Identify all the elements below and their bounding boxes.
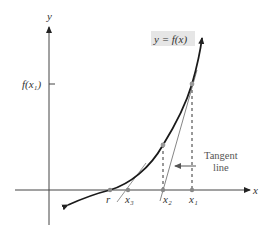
label-x3: x₃ [124, 193, 134, 205]
label-x2: x₂ [162, 193, 172, 205]
newton-method-diagram: y = f(x) y x f(x₁) r x₃ x₂ x₁ Tangent li… [0, 0, 271, 236]
annotation-line: line [213, 162, 229, 173]
point-f-x2 [161, 143, 166, 148]
curve-f [68, 38, 202, 205]
curve-label: y = f(x) [153, 33, 187, 46]
y-axis-label: y [46, 10, 52, 22]
label-x1: x₁ [188, 193, 198, 205]
x-axis-label: x [252, 184, 258, 196]
point-f-x1 [190, 82, 195, 87]
label-r: r [106, 193, 111, 205]
point-x1 [190, 188, 194, 192]
tangent-at-x1 [160, 70, 197, 201]
point-r [108, 188, 112, 192]
point-x3 [126, 188, 130, 192]
annotation-tangent: Tangent [204, 150, 238, 161]
point-x2 [161, 188, 165, 192]
y-tick-label: f(x₁) [22, 78, 41, 91]
